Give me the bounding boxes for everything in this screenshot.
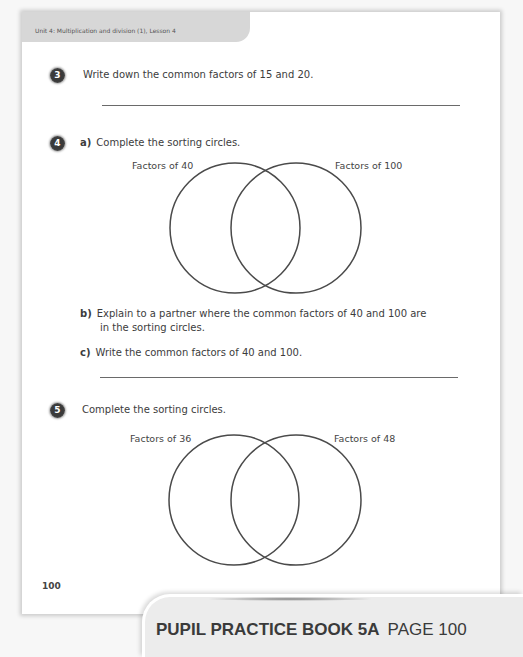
page-number: 100	[42, 581, 61, 591]
book-title: PUPIL PRACTICE BOOK 5A	[156, 620, 380, 639]
footer-page-label: PAGE 100	[388, 620, 467, 639]
venn-circle-left[interactable]	[169, 435, 299, 565]
footer-shadow	[205, 597, 375, 601]
footer-caption: PUPIL PRACTICE BOOK 5APAGE 100	[156, 620, 467, 640]
venn-circle-right[interactable]	[231, 435, 361, 565]
